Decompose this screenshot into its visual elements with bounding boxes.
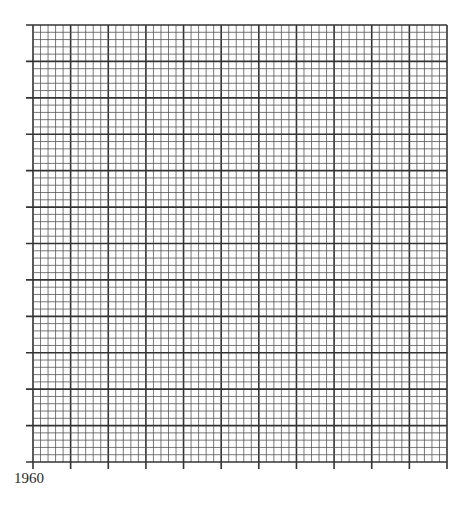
x-axis-start-label: 1960 <box>14 470 44 487</box>
graph-paper-grid <box>0 0 472 512</box>
